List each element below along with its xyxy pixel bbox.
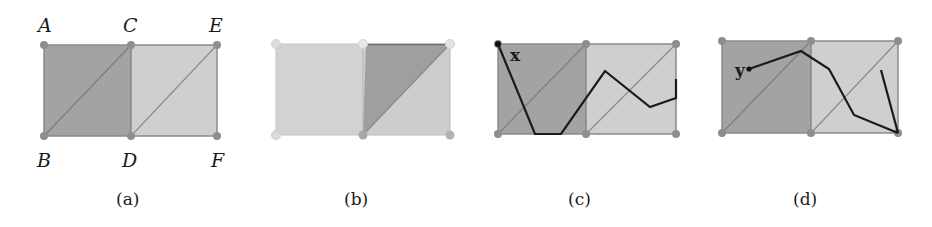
panel-d: y (d) (718, 37, 902, 209)
panel-a: A C E B D F (a) (36, 14, 225, 209)
vertex-top-right (446, 40, 455, 49)
label-b: B (36, 149, 51, 171)
panel-c: x (c) (494, 40, 680, 209)
vertex-d (127, 132, 135, 140)
vertex-bottom-middle (359, 131, 368, 140)
vertex (807, 37, 815, 45)
vertex (718, 129, 726, 137)
vertex (582, 40, 590, 48)
point-x-label: x (510, 45, 521, 65)
vertex-bottom-right (446, 131, 455, 140)
point-y-label: y (734, 60, 746, 80)
vertex (672, 40, 680, 48)
label-a: A (36, 14, 52, 36)
label-d: D (121, 149, 137, 171)
vertex-f (213, 132, 221, 140)
caption-c: (c) (568, 189, 591, 209)
caption-a: (a) (116, 189, 139, 209)
square-left (276, 44, 363, 135)
vertex-e (213, 41, 221, 49)
vertex (672, 130, 680, 138)
caption-d: (d) (793, 189, 817, 209)
vertex (582, 130, 590, 138)
vertex-c (127, 41, 135, 49)
point-x-marker (495, 41, 501, 47)
label-c: C (123, 14, 138, 36)
vertex (807, 129, 815, 137)
label-e: E (208, 14, 223, 36)
vertex-top-middle (359, 40, 368, 49)
vertex (494, 130, 502, 138)
caption-b: (b) (344, 189, 368, 209)
panel-b: (b) (272, 40, 455, 210)
figure-canvas: A C E B D F (a) (b) x (c) (0, 0, 932, 227)
point-y-marker (746, 66, 751, 71)
vertex-top-left (272, 40, 281, 49)
vertex-a (40, 41, 48, 49)
label-f: F (210, 149, 225, 171)
vertex (894, 37, 902, 45)
vertex-b (40, 132, 48, 140)
vertex (718, 37, 726, 45)
vertex-bottom-left (272, 131, 281, 140)
